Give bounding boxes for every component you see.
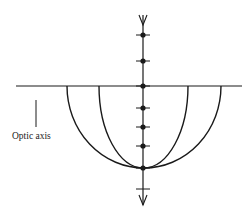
axis-dot: [140, 143, 145, 148]
axis-dot: [140, 124, 145, 129]
optic-axis-label: Optic axis: [12, 131, 51, 141]
axis-dot: [140, 165, 145, 170]
axis-dot: [140, 32, 145, 37]
axis-dot: [140, 105, 145, 110]
axis-dot: [140, 58, 145, 63]
axis-dot: [140, 83, 145, 88]
wavefront-diagram: [0, 0, 251, 212]
